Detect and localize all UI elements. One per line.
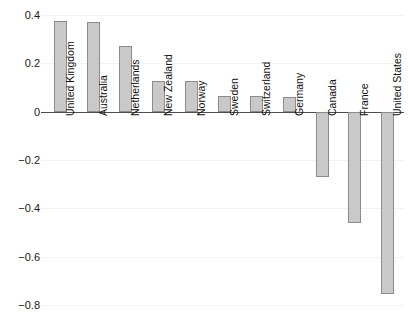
bar-category-label: Switzerland [261, 61, 272, 115]
bar[interactable] [316, 112, 329, 177]
bar-category-label: Canada [327, 79, 338, 116]
bar-category-label: New Zealand [163, 54, 174, 116]
bar-category-label: United States [392, 53, 403, 116]
bar-category-label: United Kingdom [65, 41, 76, 116]
bar[interactable] [381, 112, 394, 294]
bar-category-label: Australia [98, 75, 109, 116]
gridline [44, 305, 404, 306]
y-axis-tick-label: 0.2 [0, 58, 40, 69]
y-axis-tick-label: −0.4 [0, 203, 40, 214]
y-axis-tick-label: 0.4 [0, 10, 40, 21]
bar-category-label: Sweden [229, 78, 240, 116]
plot-area: United KingdomAustraliaNetherlandsNew Ze… [44, 0, 404, 332]
gridline [44, 15, 404, 16]
y-axis-tick-label: −0.8 [0, 300, 40, 311]
y-axis-tick-label: −0.6 [0, 252, 40, 263]
y-axis-tick-label: −0.2 [0, 155, 40, 166]
bar-category-label: France [359, 83, 370, 116]
bar[interactable] [348, 112, 361, 223]
y-axis-tick-label: 0 [0, 107, 40, 118]
gridline [44, 257, 404, 258]
bar-category-label: Germany [294, 72, 305, 115]
bar-category-label: Netherlands [130, 59, 141, 116]
bar-chart: 0.40.20−0.2−0.4−0.6−0.8 United KingdomAu… [0, 0, 408, 332]
bar-category-label: Norway [196, 80, 207, 116]
